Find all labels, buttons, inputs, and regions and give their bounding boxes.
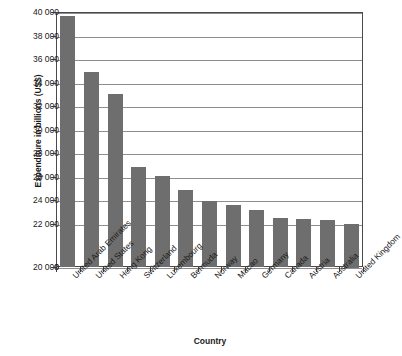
y-axis-tick-mark [51, 153, 56, 154]
x-axis-tick-mark [103, 267, 104, 272]
x-axis-tick-mark [292, 267, 293, 272]
x-axis-tick-mark [339, 267, 340, 272]
x-axis-title: Country [55, 336, 365, 346]
gridline [57, 154, 362, 155]
gridline [57, 60, 362, 61]
x-axis-tick-mark [150, 267, 151, 272]
y-axis-tick-mark [51, 36, 56, 37]
bar [60, 16, 75, 267]
x-axis-tick-mark [56, 267, 57, 272]
x-axis-tick-mark [198, 267, 199, 272]
x-axis-tick-mark [174, 267, 175, 272]
x-axis-tick-mark [269, 267, 270, 272]
y-axis-tick-mark [51, 130, 56, 131]
y-axis-tick-mark [51, 83, 56, 84]
y-axis-tick-mark [51, 12, 56, 13]
x-axis-tick-mark [363, 267, 364, 272]
gridline [57, 178, 362, 179]
x-axis-tick-mark [221, 267, 222, 272]
x-axis-tick-mark [316, 267, 317, 272]
gridline [57, 13, 362, 14]
gridline [57, 84, 362, 85]
gridline [57, 131, 362, 132]
y-axis-tick-mark [51, 177, 56, 178]
x-axis-tick-mark [80, 267, 81, 272]
bar [84, 72, 99, 267]
y-axis-tick-mark [51, 224, 56, 225]
y-axis-tick-mark [51, 59, 56, 60]
y-axis-tick-mark [51, 106, 56, 107]
x-axis-tick-mark [245, 267, 246, 272]
x-axis-tick-mark [127, 267, 128, 272]
y-axis-tick-mark [51, 200, 56, 201]
gridline [57, 37, 362, 38]
gridline [57, 107, 362, 108]
